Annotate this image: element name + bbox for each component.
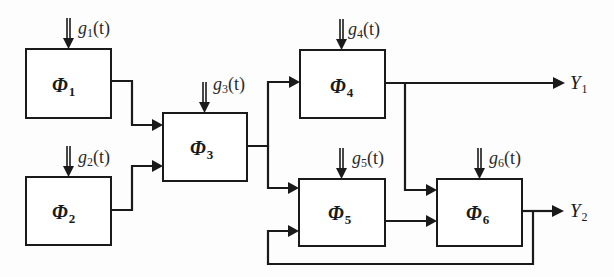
- connection-phi3-phi5: [268, 146, 299, 194]
- arrowhead-icon: [152, 119, 163, 131]
- arrowhead-icon: [426, 184, 437, 196]
- connection-phi2-phi3: [111, 160, 163, 210]
- block-phi6: Φ6: [437, 179, 522, 246]
- input-g6: g6(t): [474, 148, 521, 179]
- connection-phi6-y2: [522, 205, 564, 217]
- connection-phi3-phi4: [247, 76, 300, 146]
- connection-phi5-phi6: [385, 215, 437, 227]
- connection-phi4-phi6: [405, 83, 437, 196]
- svg-text:g5(t): g5(t): [352, 148, 384, 170]
- output-y1-label: Y1: [570, 72, 588, 96]
- block-diagram: Φ1 Φ2 Φ3 Φ4 Φ5 Φ6 g1(t) g2(t) g3(t) g4(t…: [0, 0, 614, 277]
- svg-text:g3(t): g3(t): [213, 74, 245, 96]
- block-phi1: Φ1: [26, 49, 111, 118]
- arrowhead-icon: [288, 225, 299, 237]
- input-g2: g2(t): [63, 146, 110, 177]
- arrowhead-icon: [199, 102, 210, 113]
- input-g1: g1(t): [63, 18, 110, 49]
- arrowhead-icon: [553, 77, 565, 89]
- connection-phi4-y1: [385, 77, 565, 89]
- arrowhead-icon: [152, 160, 163, 172]
- arrowhead-icon: [63, 38, 74, 49]
- input-g3: g3(t): [199, 74, 245, 113]
- arrowhead-icon: [288, 182, 299, 194]
- input-g5: g5(t): [336, 148, 384, 179]
- connection-phi1-phi3: [111, 81, 163, 131]
- arrowhead-icon: [289, 76, 300, 88]
- svg-text:g4(t): g4(t): [348, 19, 380, 41]
- arrowhead-icon: [426, 215, 437, 227]
- arrowhead-icon: [63, 166, 74, 177]
- block-phi4: Φ4: [300, 50, 385, 118]
- svg-text:g2(t): g2(t): [78, 147, 110, 169]
- input-g4: g4(t): [336, 19, 380, 50]
- svg-text:g1(t): g1(t): [78, 18, 110, 40]
- svg-text:g6(t): g6(t): [489, 148, 521, 170]
- block-phi2: Φ2: [26, 177, 111, 245]
- block-phi5: Φ5: [299, 179, 385, 246]
- arrowhead-icon: [336, 39, 347, 50]
- arrowhead-icon: [336, 168, 347, 179]
- output-y2-label: Y2: [570, 200, 588, 224]
- arrowhead-icon: [474, 168, 485, 179]
- block-phi3: Φ3: [163, 113, 247, 181]
- arrowhead-icon: [552, 205, 564, 217]
